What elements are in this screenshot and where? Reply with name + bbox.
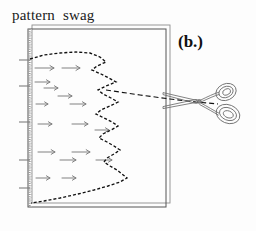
scissors-lower-shank-inner <box>199 104 218 115</box>
paper-front-sheet <box>28 29 166 207</box>
scissors-upper-handle-loop <box>213 80 239 104</box>
figure-canvas <box>0 0 256 231</box>
scissors-icon <box>163 80 243 127</box>
figure-root: pattern swag (b.) <box>0 0 256 231</box>
scissors-lower-handle-loop <box>213 101 243 127</box>
